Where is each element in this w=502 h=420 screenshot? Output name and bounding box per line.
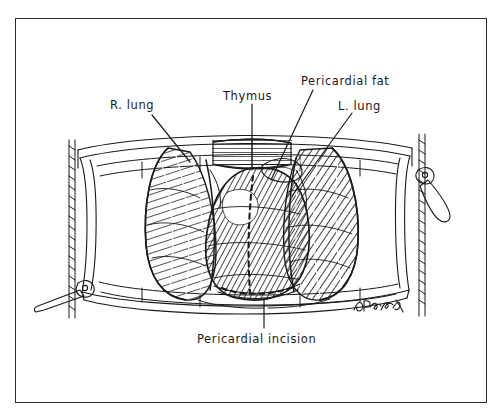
label-pericardial-fat: Pericardial fat <box>301 74 389 88</box>
ratchet-bar-left <box>69 140 75 318</box>
artist-signature <box>352 296 404 318</box>
crank-handle-right <box>416 168 450 222</box>
illustration-figure: R. lung Thymus Pericardial fat L. lung P… <box>0 0 502 420</box>
crank-handle-left <box>34 281 94 312</box>
ratchet-bar-right <box>419 134 425 316</box>
anatomical-drawing <box>0 0 502 420</box>
label-pericardial-incision: Pericardial incision <box>197 332 316 346</box>
label-l-lung: L. lung <box>338 99 381 113</box>
label-thymus: Thymus <box>223 89 272 103</box>
label-r-lung: R. lung <box>110 98 154 112</box>
